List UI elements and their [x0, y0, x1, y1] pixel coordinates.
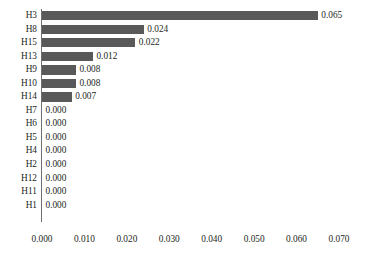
x-tick-label: 0.000: [32, 233, 53, 245]
bar-row: H110.000: [0, 185, 366, 199]
category-label: H5: [0, 131, 37, 145]
category-label: H15: [0, 36, 37, 50]
bar-track: 0.024: [42, 23, 366, 37]
bar-track: 0.000: [42, 158, 366, 172]
bar-value-label: 0.008: [76, 77, 100, 91]
category-label: H6: [0, 117, 37, 131]
bar: [42, 92, 72, 101]
category-label: H8: [0, 23, 37, 37]
category-label: H12: [0, 172, 37, 186]
x-tick-label: 0.050: [244, 233, 265, 245]
bar-track: 0.007: [42, 90, 366, 104]
bar-row: H150.022: [0, 36, 366, 50]
bar-row: H20.000: [0, 158, 366, 172]
category-label: H14: [0, 90, 37, 104]
x-tick-label: 0.030: [159, 233, 180, 245]
bar-value-label: 0.007: [72, 90, 96, 104]
bar: [42, 52, 93, 61]
category-label: H3: [0, 9, 37, 23]
x-tick-label: 0.010: [74, 233, 95, 245]
bar-track: 0.000: [42, 172, 366, 186]
bar-value-label: 0.000: [42, 199, 66, 213]
bar-value-label: 0.012: [93, 50, 117, 64]
bar-track: 0.022: [42, 36, 366, 50]
category-label: H4: [0, 144, 37, 158]
x-tick-label: 0.060: [286, 233, 307, 245]
bar: [42, 79, 76, 88]
bar-value-label: 0.000: [42, 185, 66, 199]
category-label: H9: [0, 63, 37, 77]
x-tick-label: 0.070: [329, 233, 350, 245]
bar-row: H120.000: [0, 172, 366, 186]
bar-row: H90.008: [0, 63, 366, 77]
bar-row: H40.000: [0, 144, 366, 158]
bar: [42, 25, 144, 34]
bar-value-label: 0.000: [42, 104, 66, 118]
bar-row: H80.024: [0, 23, 366, 37]
bar-track: 0.000: [42, 117, 366, 131]
bar-value-label: 0.000: [42, 158, 66, 172]
bar: [42, 38, 135, 47]
bar-track: 0.008: [42, 63, 366, 77]
bar: [42, 11, 318, 20]
plot-area: H30.065H80.024H150.022H130.012H90.008H10…: [0, 0, 366, 232]
bar-row: H100.008: [0, 77, 366, 91]
bar-row: H70.000: [0, 104, 366, 118]
bar-track: 0.000: [42, 144, 366, 158]
category-label: H11: [0, 185, 37, 199]
bar-row: H10.000: [0, 199, 366, 213]
bar-track: 0.000: [42, 104, 366, 118]
category-label: H10: [0, 77, 37, 91]
bar-rows: H30.065H80.024H150.022H130.012H90.008H10…: [0, 9, 366, 212]
bar-value-label: 0.000: [42, 117, 66, 131]
bar-row: H60.000: [0, 117, 366, 131]
x-tick-label: 0.020: [116, 233, 137, 245]
bar-track: 0.000: [42, 199, 366, 213]
x-tick-label: 0.040: [201, 233, 222, 245]
category-label: H13: [0, 50, 37, 64]
bar-value-label: 0.008: [76, 63, 100, 77]
category-label: H7: [0, 104, 37, 118]
bar-value-label: 0.022: [135, 36, 159, 50]
bar-track: 0.000: [42, 131, 366, 145]
bar-row: H50.000: [0, 131, 366, 145]
category-label: H2: [0, 158, 37, 172]
x-axis: 0.0000.0100.0200.0300.0400.0500.0600.070: [0, 231, 366, 253]
bar-track: 0.012: [42, 50, 366, 64]
bar-value-label: 0.024: [144, 23, 168, 37]
bar-chart: H30.065H80.024H150.022H130.012H90.008H10…: [0, 0, 366, 260]
category-label: H1: [0, 199, 37, 213]
bar: [42, 65, 76, 74]
bar-value-label: 0.000: [42, 144, 66, 158]
bar-track: 0.065: [42, 9, 366, 23]
bar-value-label: 0.065: [318, 9, 342, 23]
bar-value-label: 0.000: [42, 172, 66, 186]
bar-track: 0.008: [42, 77, 366, 91]
bar-track: 0.000: [42, 185, 366, 199]
bar-row: H30.065: [0, 9, 366, 23]
bar-value-label: 0.000: [42, 131, 66, 145]
bar-row: H140.007: [0, 90, 366, 104]
bar-row: H130.012: [0, 50, 366, 64]
